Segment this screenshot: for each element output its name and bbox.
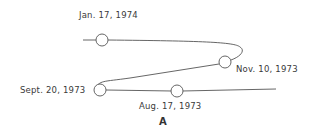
point-nov-1973 xyxy=(219,56,231,68)
point-aug-1973 xyxy=(171,85,183,97)
diagram-caption: A xyxy=(159,116,167,127)
label-nov-1973: Nov. 10, 1973 xyxy=(236,64,298,74)
point-sept-1973 xyxy=(94,84,106,96)
label-sept-1973: Sept. 20, 1973 xyxy=(20,85,85,95)
label-aug-1973: Aug. 17, 1973 xyxy=(139,101,201,111)
label-jan-1974: Jan. 17, 1974 xyxy=(79,10,138,20)
point-jan-1974 xyxy=(96,34,108,46)
